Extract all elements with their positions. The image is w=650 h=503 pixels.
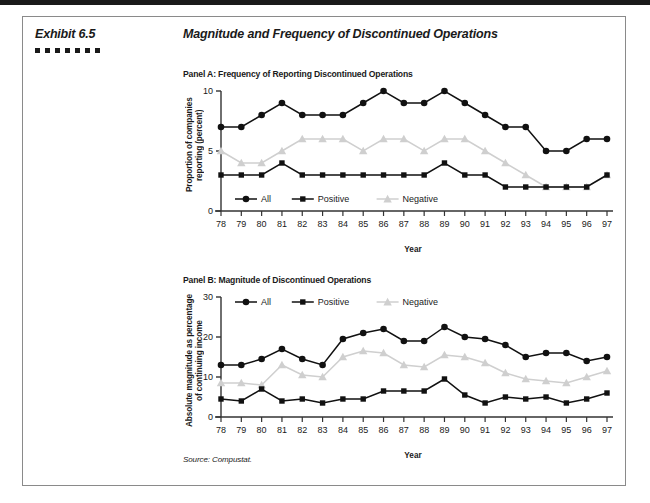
source-note: Source: Compustat. <box>183 455 252 464</box>
x-tick-label: 80 <box>257 219 267 229</box>
data-point-square <box>279 398 284 403</box>
data-point-circle <box>279 100 286 107</box>
decorative-square <box>35 48 40 53</box>
exhibit-title: Magnitude and Frequency of Discontinued … <box>183 27 603 41</box>
y-tick-label: 5 <box>208 146 213 156</box>
data-point-square <box>442 376 447 381</box>
x-tick-label: 89 <box>439 425 449 435</box>
x-tick-label: 91 <box>480 219 490 229</box>
data-point-square <box>381 172 386 177</box>
x-tick-label: 90 <box>460 425 470 435</box>
panel-a-y-axis-label: Proportion of companies reporting (perce… <box>185 89 205 201</box>
panel-a-plot: 0510787980818283848586878889909192939495… <box>183 83 613 243</box>
data-point-circle <box>238 362 245 369</box>
legend-item-negative: Negative <box>377 194 439 204</box>
data-point-circle <box>279 346 286 353</box>
data-point-circle <box>543 350 550 357</box>
decorative-square <box>65 48 70 53</box>
data-point-circle <box>401 338 408 345</box>
data-point-square <box>564 400 569 405</box>
x-tick-label: 80 <box>257 425 267 435</box>
x-tick-label: 94 <box>541 425 551 435</box>
data-point-square <box>218 172 223 177</box>
x-tick-label: 85 <box>358 425 368 435</box>
data-point-circle <box>522 354 529 361</box>
data-point-triangle <box>501 369 509 377</box>
data-point-square <box>259 172 264 177</box>
x-tick-label: 86 <box>379 219 389 229</box>
data-point-square <box>482 400 487 405</box>
data-point-circle <box>319 112 326 119</box>
data-point-square <box>381 388 386 393</box>
legend-item-positive: Positive <box>292 194 350 204</box>
x-tick-label: 83 <box>318 425 328 435</box>
legend-label: All <box>261 297 271 307</box>
data-point-square <box>401 172 406 177</box>
panel-a-chart: Proportion of companies reporting (perce… <box>183 83 613 263</box>
series-line-positive <box>221 163 607 187</box>
data-point-circle <box>340 112 347 119</box>
data-point-square <box>442 160 447 165</box>
panel-a-title: Panel A: Frequency of Reporting Disconti… <box>183 69 413 79</box>
x-tick-label: 79 <box>236 219 246 229</box>
data-point-square <box>361 172 366 177</box>
x-tick-label: 96 <box>582 425 592 435</box>
legend-item-positive: Positive <box>292 297 350 307</box>
x-tick-label: 93 <box>521 425 531 435</box>
panel-b-chart: Absolute magnitude as percentage of cont… <box>183 289 613 469</box>
data-point-square <box>259 386 264 391</box>
x-tick-label: 82 <box>297 425 307 435</box>
data-point-square <box>320 172 325 177</box>
panel-b-y-axis-label: Absolute magnitude as percentage of cont… <box>185 291 205 431</box>
data-point-circle <box>522 124 529 131</box>
x-tick-label: 87 <box>399 425 409 435</box>
x-tick-label: 84 <box>338 219 348 229</box>
x-tick-label: 95 <box>561 425 571 435</box>
data-point-square <box>421 388 426 393</box>
data-point-circle <box>604 136 611 143</box>
data-point-triangle <box>278 147 286 155</box>
data-point-circle <box>583 136 590 143</box>
legend-marker-square <box>300 299 305 304</box>
x-tick-label: 79 <box>236 425 246 435</box>
data-point-square <box>320 400 325 405</box>
x-tick-label: 97 <box>602 219 612 229</box>
x-tick-label: 88 <box>419 425 429 435</box>
data-point-circle <box>441 324 448 331</box>
legend-marker-circle <box>243 299 250 306</box>
data-point-circle <box>482 336 489 343</box>
data-point-circle <box>563 148 570 155</box>
data-point-circle <box>502 124 509 131</box>
data-point-square <box>340 172 345 177</box>
data-point-square <box>462 392 467 397</box>
panel-b-title: Panel B: Magnitude of Discontinued Opera… <box>183 275 371 285</box>
data-point-circle <box>461 100 468 107</box>
decorative-square <box>75 48 80 53</box>
legend-label: Negative <box>403 194 439 204</box>
legend-item-all: All <box>235 297 271 307</box>
data-point-square <box>584 184 589 189</box>
x-tick-label: 92 <box>500 219 510 229</box>
x-tick-label: 78 <box>216 219 226 229</box>
data-point-triangle <box>522 171 530 179</box>
top-black-bar <box>0 0 650 5</box>
decorative-square <box>45 48 50 53</box>
data-point-circle <box>258 356 265 363</box>
data-point-square <box>340 396 345 401</box>
x-tick-label: 83 <box>318 219 328 229</box>
exhibit-label: Exhibit 6.5 <box>35 27 155 41</box>
legend-marker-square <box>300 196 305 201</box>
legend-label: All <box>261 194 271 204</box>
series-line-all <box>221 91 607 151</box>
panel-b-x-axis-label: Year <box>223 451 603 460</box>
decorative-squares <box>35 48 155 53</box>
data-point-square <box>604 390 609 395</box>
data-point-circle <box>340 336 347 343</box>
data-point-circle <box>563 350 570 357</box>
x-tick-label: 90 <box>460 219 470 229</box>
data-point-triangle <box>603 367 611 375</box>
x-tick-label: 96 <box>582 219 592 229</box>
data-point-circle <box>502 342 509 349</box>
data-point-triangle <box>501 159 509 167</box>
data-point-circle <box>583 358 590 365</box>
